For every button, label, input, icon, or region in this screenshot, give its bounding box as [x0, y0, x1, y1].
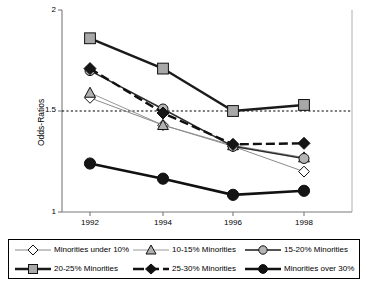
legend-item-15-20-minorities[interactable]: 15-20% Minorities — [243, 243, 359, 257]
gray-square-icon — [13, 262, 53, 276]
data-point-1994 — [157, 173, 168, 184]
series-20-25-minorities — [85, 33, 310, 117]
legend-item-10-15-minorities[interactable]: 10-15% Minorities — [131, 243, 243, 257]
data-point-1998 — [298, 185, 309, 196]
legend-label: 10-15% Minorities — [171, 245, 236, 254]
data-point-1994 — [158, 63, 169, 74]
odds-ratios-line-chart: Odds-Ratios 2 1.5 1 1992 1994 1996 1998 — [0, 0, 370, 287]
data-point-1998 — [299, 100, 310, 111]
legend-label: 15-20% Minorities — [283, 245, 348, 254]
legend-item-25-30-minorities[interactable]: 25-30% Minorities — [131, 262, 243, 276]
data-point-1992 — [85, 87, 96, 97]
data-point-1998 — [298, 137, 310, 149]
series-line — [90, 38, 304, 111]
legend-row-1: Minorities under 10% 10-15% Minorities — [9, 240, 359, 259]
series-10-15-minorities — [85, 87, 310, 162]
data-point-1996 — [228, 106, 239, 117]
series-15-20-minorities — [85, 66, 309, 164]
axis-lines — [58, 10, 352, 216]
legend-row-2: 20-25% Minorities 25-30% Minorities — [9, 259, 359, 278]
legend-label: Minorities under 10% — [53, 245, 129, 254]
gray-circle-icon — [243, 243, 283, 257]
legend-label: 25-30% Minorities — [171, 264, 236, 273]
black-circle-icon — [243, 262, 283, 276]
open-diamond-icon — [13, 243, 53, 257]
chart-legend: Minorities under 10% 10-15% Minorities — [8, 239, 360, 279]
legend-item-20-25-minorities[interactable]: 20-25% Minorities — [9, 262, 131, 276]
data-point-1998 — [299, 166, 310, 177]
series-line — [90, 69, 304, 145]
series-layer — [84, 33, 310, 201]
legend-item-minorities-under-10[interactable]: Minorities under 10% — [9, 243, 131, 257]
gray-triangle-icon — [131, 243, 171, 257]
series-line — [90, 71, 304, 159]
legend-item-minorities-over-30[interactable]: Minorities over 30% — [243, 262, 359, 276]
data-point-1996 — [227, 189, 238, 200]
series-minorities-over-30 — [84, 158, 309, 201]
series-line — [90, 164, 304, 195]
data-point-1998 — [299, 153, 309, 163]
data-point-1992 — [84, 158, 95, 169]
black-diamond-icon — [131, 262, 171, 276]
data-point-1992 — [85, 33, 96, 44]
legend-label: 20-25% Minorities — [53, 264, 118, 273]
series-line — [90, 93, 304, 158]
legend-label: Minorities over 30% — [283, 264, 354, 273]
